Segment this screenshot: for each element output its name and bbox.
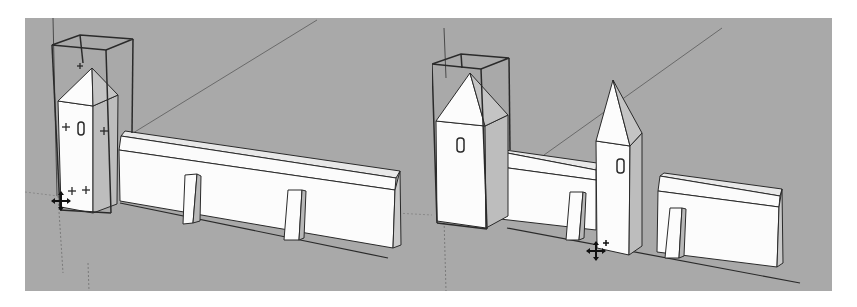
- window-icon: [457, 138, 464, 152]
- viewport-right[interactable]: [432, 18, 832, 291]
- viewport-left[interactable]: [25, 18, 432, 291]
- window-icon: [78, 122, 84, 135]
- modeling-canvas[interactable]: [25, 18, 832, 291]
- wall-segment-right[interactable]: [657, 173, 783, 267]
- window-icon: [617, 159, 624, 173]
